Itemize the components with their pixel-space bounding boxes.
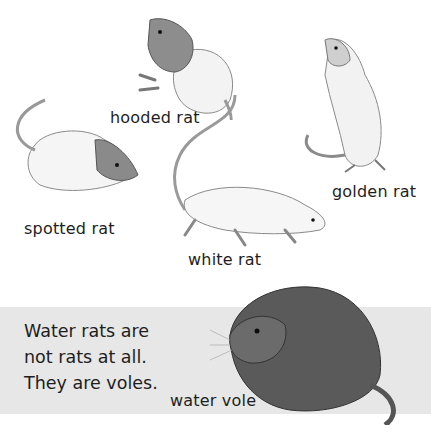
white-rat-label: white rat (188, 250, 261, 269)
hooded-rat-label: hooded rat (110, 108, 200, 127)
golden-rat-label: golden rat (332, 182, 416, 201)
white-rat-illustration (175, 180, 335, 250)
caption-line-3: They are voles. (24, 370, 158, 396)
golden-rat-illustration (300, 30, 400, 175)
caption-text: Water rats are not rats at all. They are… (24, 318, 158, 396)
caption-line-2: not rats at all. (24, 344, 158, 370)
caption-line-1: Water rats are (24, 318, 158, 344)
spotted-rat-label: spotted rat (24, 219, 115, 238)
water-vole-label: water vole (170, 391, 256, 410)
